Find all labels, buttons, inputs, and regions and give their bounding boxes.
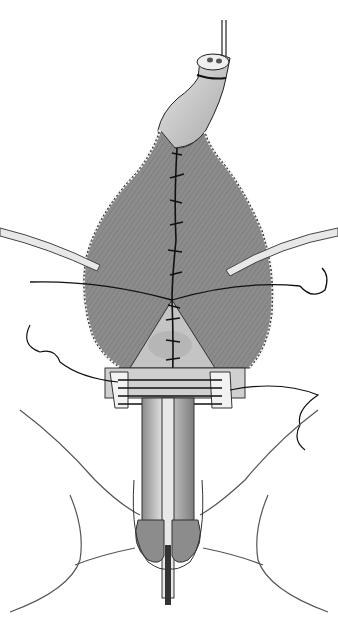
mobilized-stump [158, 54, 230, 148]
surgical-illustration [0, 0, 338, 617]
catheter-wires-top [222, 20, 226, 56]
